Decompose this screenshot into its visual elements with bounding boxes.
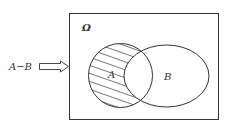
set-b-label: B (163, 71, 171, 82)
set-a-circle (89, 44, 153, 108)
venn-diagram: Ω A B A−B (0, 0, 227, 132)
universe-label: Ω (81, 22, 91, 33)
set-a-label: A (107, 69, 115, 80)
arrow-right-icon (40, 61, 69, 72)
hatch-a-minus-b (80, 22, 160, 130)
pointer-label: A−B (8, 61, 32, 72)
